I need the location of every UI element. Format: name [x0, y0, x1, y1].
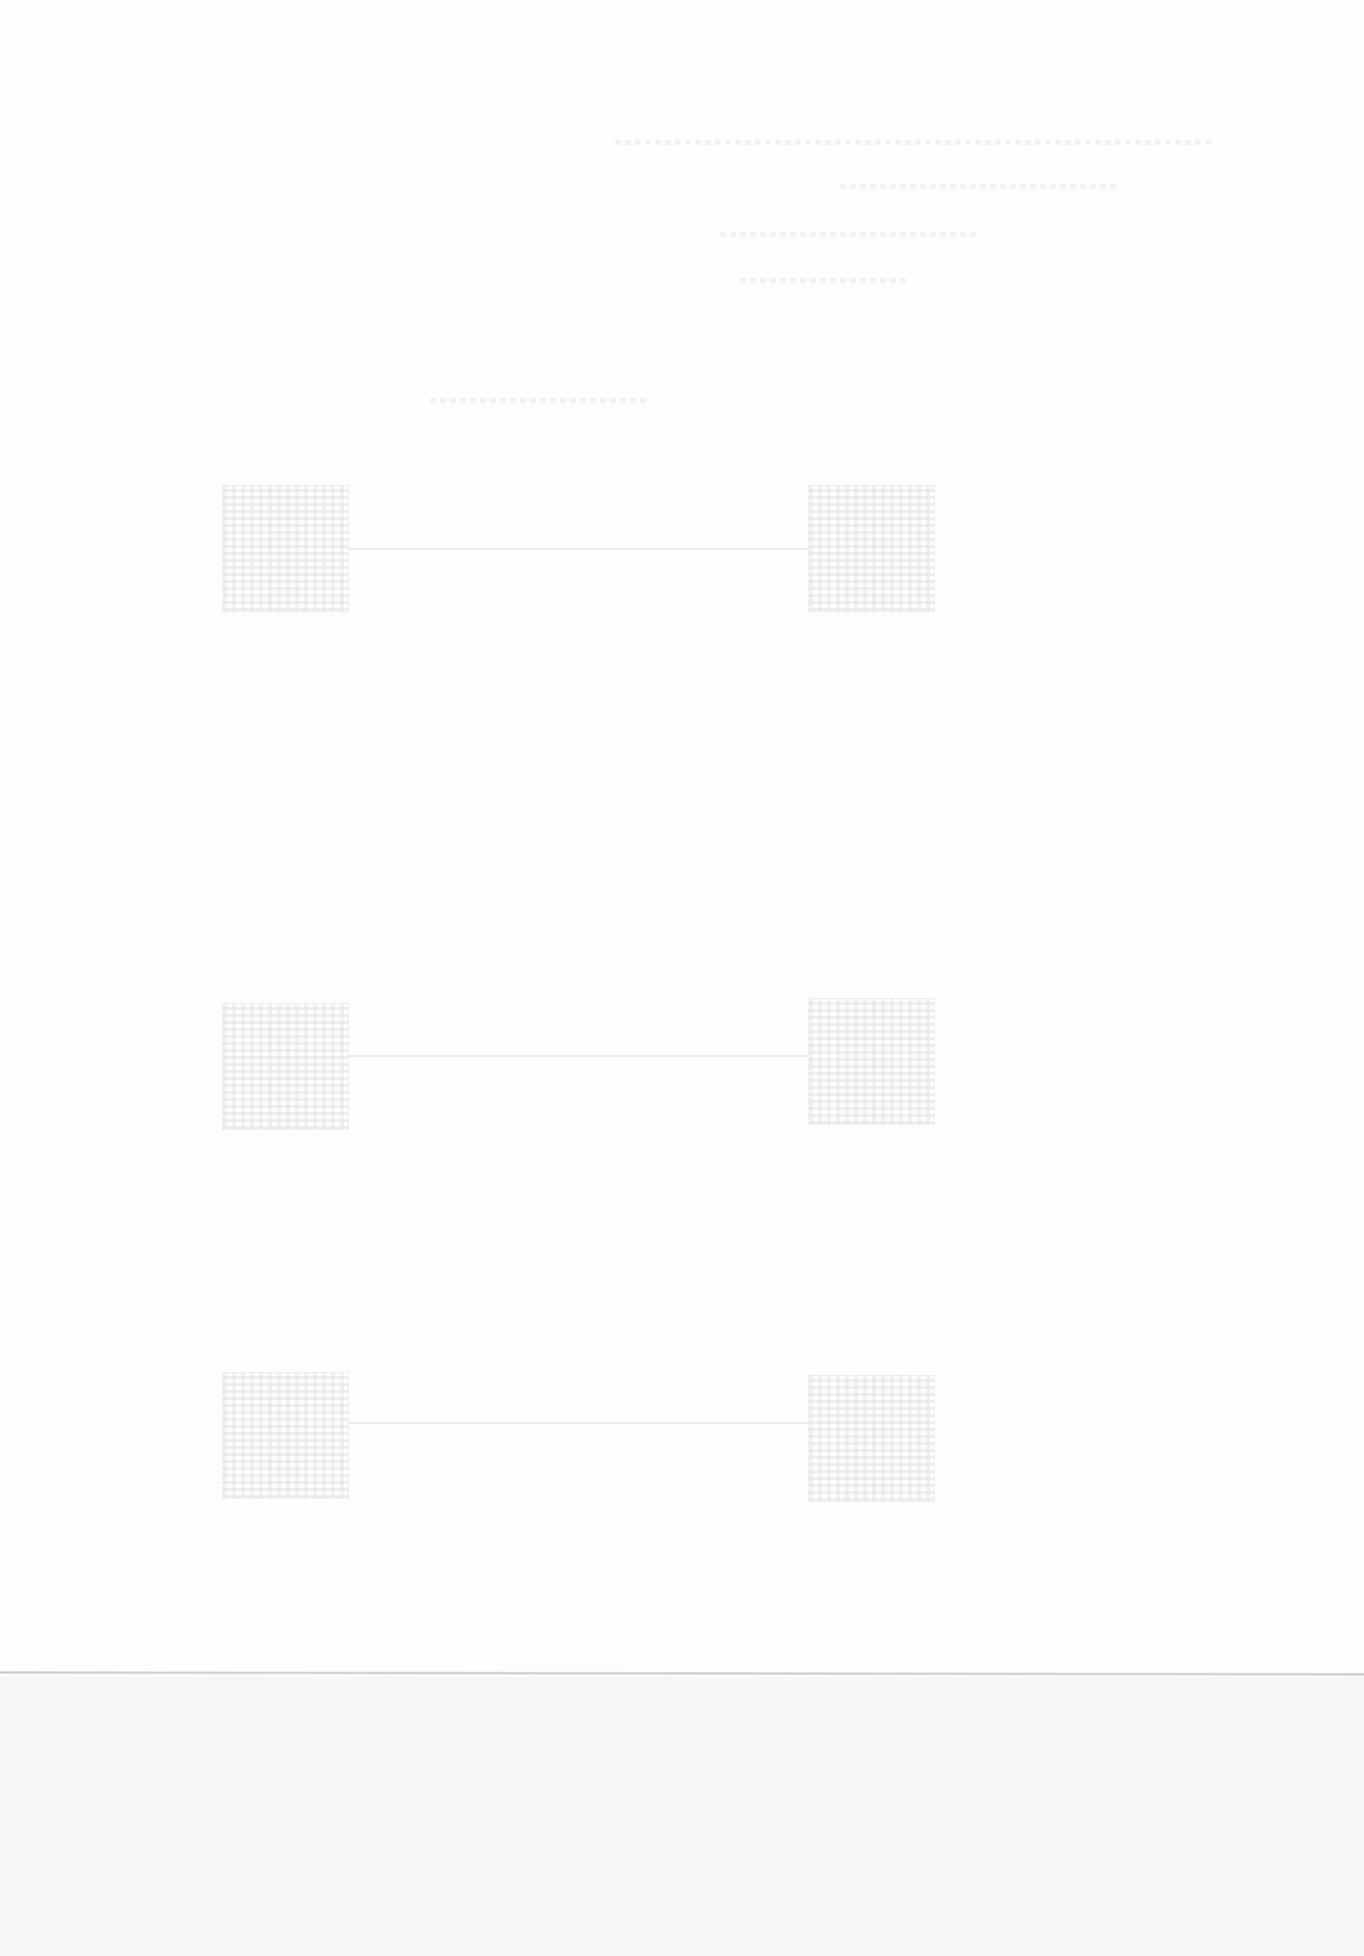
- square-block: [222, 1372, 349, 1499]
- faint-text-line: [720, 232, 980, 237]
- square-block: [222, 1003, 349, 1130]
- faint-text-line: [615, 140, 1215, 145]
- fold-line: [0, 1671, 1364, 1676]
- scanned-page: [0, 0, 1364, 1675]
- faint-text-line: [430, 398, 650, 403]
- square-block: [222, 485, 349, 612]
- faint-text-line: [740, 278, 910, 283]
- faint-text-line: [840, 184, 1120, 189]
- square-block: [808, 998, 935, 1125]
- connector-line: [348, 1422, 808, 1424]
- page-underlay: [0, 1677, 1364, 1956]
- square-block: [808, 485, 935, 612]
- connector-line: [348, 1055, 808, 1057]
- square-block: [808, 1375, 935, 1502]
- connector-line: [348, 548, 808, 550]
